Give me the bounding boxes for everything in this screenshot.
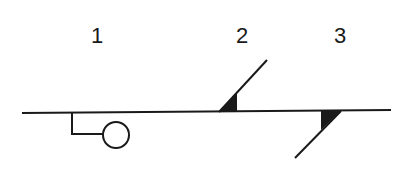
label-2: 2 [236,25,248,47]
label-3: 3 [334,25,346,47]
symbol-2 [219,60,267,112]
symbol-3 [295,111,341,158]
symbol-3-diagonal [295,111,341,158]
symbol-1 [72,113,129,148]
symbol-1-circle-icon [103,122,129,148]
label-1: 1 [91,25,103,47]
symbol-1-leg [72,113,103,134]
diagram-svg [0,0,408,172]
diagram-canvas: 1 2 3 [0,0,408,172]
